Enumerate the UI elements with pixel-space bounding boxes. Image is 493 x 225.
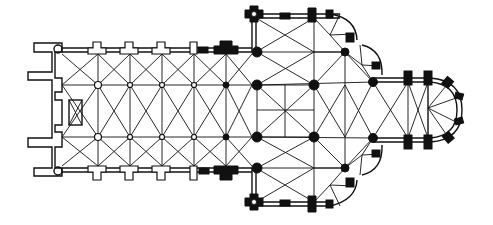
transept xyxy=(245,6,382,212)
choir-apse xyxy=(373,71,464,149)
nave-walls xyxy=(62,41,252,180)
cathedral-floor-plan xyxy=(0,0,493,225)
nave-vaults xyxy=(62,54,252,166)
